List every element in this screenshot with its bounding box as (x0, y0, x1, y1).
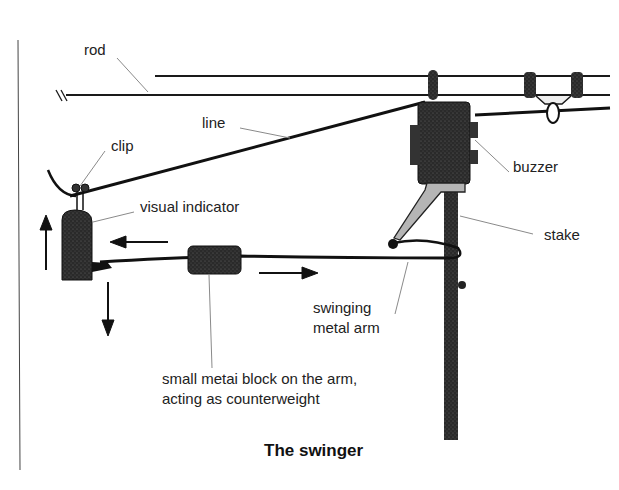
label-counterweight-2: acting as counterweight (162, 389, 320, 409)
swinger-diagram: rod line clip visual indicator buzzer st… (0, 0, 619, 490)
label-line: line (202, 113, 225, 133)
label-stake: stake (544, 225, 580, 245)
counterweight-block (188, 246, 241, 274)
label-visual-indicator: visual indicator (140, 197, 239, 217)
label-swinging-metal-arm-1: swinging (313, 298, 371, 318)
label-buzzer: buzzer (513, 157, 558, 177)
diagram-drawing (0, 0, 619, 490)
visual-indicator (62, 210, 112, 280)
diagram-title: The swinger (264, 441, 363, 461)
label-counterweight-1: small metai block on the arm, (162, 369, 357, 389)
page-border (18, 40, 20, 470)
label-swinging-metal-arm-2: metal arm (313, 318, 380, 338)
label-rod: rod (84, 40, 106, 60)
buzzer (394, 102, 478, 240)
label-clip: clip (111, 136, 134, 156)
rod (56, 72, 610, 104)
